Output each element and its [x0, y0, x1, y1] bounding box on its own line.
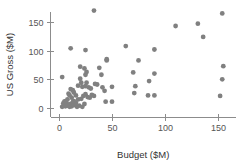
data-point	[220, 11, 225, 16]
data-point	[136, 58, 141, 63]
data-point	[152, 47, 157, 52]
data-point	[218, 94, 223, 99]
y-axis-tick-label: 0	[38, 104, 43, 114]
x-axis-tick-label: 150	[211, 123, 226, 133]
data-point	[76, 83, 81, 88]
data-point	[83, 72, 88, 77]
data-point	[110, 99, 115, 104]
x-axis-tick-label: 50	[107, 123, 117, 133]
data-point	[103, 99, 108, 104]
data-point	[201, 35, 206, 40]
data-point	[173, 24, 178, 29]
x-axis-tick-label: 0	[57, 123, 62, 133]
data-point	[220, 77, 225, 82]
data-point	[68, 46, 73, 51]
data-point	[123, 44, 128, 49]
data-point	[147, 79, 152, 84]
data-point	[102, 88, 107, 93]
data-point	[95, 82, 100, 87]
data-point	[132, 91, 137, 96]
data-point	[60, 75, 65, 80]
data-point	[78, 76, 83, 81]
x-axis-tick-label: 100	[158, 123, 173, 133]
data-point	[152, 71, 157, 76]
data-point	[82, 102, 87, 107]
data-point	[97, 65, 102, 70]
y-axis-tick-label: 150	[28, 18, 43, 28]
y-axis-title: US Gross ($M)	[4, 33, 15, 96]
data-point	[133, 84, 138, 89]
data-point	[78, 64, 83, 69]
data-point	[92, 8, 97, 13]
data-point	[92, 94, 97, 99]
y-axis-tick-label: 50	[33, 75, 43, 85]
data-point	[60, 104, 65, 109]
data-point	[221, 64, 226, 69]
data-point	[88, 86, 93, 91]
data-point	[83, 48, 88, 53]
x-axis-title: Budget ($M)	[117, 149, 169, 160]
data-point	[110, 84, 115, 89]
data-point	[152, 93, 157, 98]
data-point	[99, 72, 104, 77]
data-point	[131, 70, 136, 75]
chart-page: 050100150050100150Budget ($M)US Gross ($…	[0, 0, 242, 164]
data-point-group	[60, 8, 226, 109]
data-point	[74, 100, 79, 105]
y-axis-tick-label: 100	[28, 47, 43, 57]
data-point	[146, 93, 151, 98]
data-point	[62, 99, 67, 104]
data-point	[104, 58, 109, 63]
scatter-plot: 050100150050100150Budget ($M)US Gross ($…	[0, 0, 242, 164]
data-point	[195, 21, 200, 26]
